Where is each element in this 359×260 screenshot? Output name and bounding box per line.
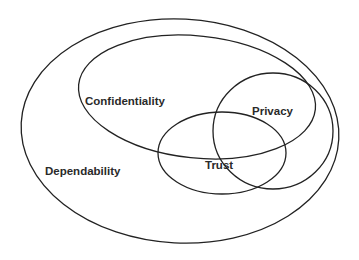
confidentiality-label: Confidentiality (85, 95, 165, 107)
dependability-ellipse (15, 11, 344, 251)
privacy-ellipse (213, 73, 333, 189)
privacy-label: Privacy (252, 105, 294, 117)
euler-diagram: Dependability Confidentiality Privacy Tr… (0, 0, 359, 260)
trust-ellipse (158, 112, 286, 194)
diagram-svg: Dependability Confidentiality Privacy Tr… (0, 0, 359, 260)
dependability-label: Dependability (45, 165, 121, 177)
trust-label: Trust (205, 159, 233, 171)
